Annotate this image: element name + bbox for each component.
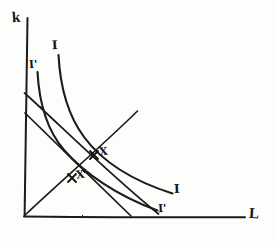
figure-canvas <box>0 0 277 241</box>
isoquant-label-upper-right: I <box>174 183 180 195</box>
hand-drawn-isoquant-figure: k L I I' I I' X X' <box>0 0 277 241</box>
isoquant-label-lower-right: I' <box>158 203 167 214</box>
expansion-path-ray <box>25 111 138 215</box>
isoquant-curve-inner <box>38 72 158 211</box>
y-axis <box>25 18 28 216</box>
isoquant-label-lower-left: I' <box>29 59 38 71</box>
x-axis <box>24 216 245 217</box>
equilibrium-label-lower: X' <box>75 168 88 181</box>
isoquant-label-upper-left: I <box>52 39 59 51</box>
tangency-marker-x-prime <box>68 174 76 182</box>
equilibrium-label-upper: X <box>98 146 108 158</box>
y-axis-label: k <box>11 10 20 26</box>
x-axis-label: L <box>248 206 259 222</box>
